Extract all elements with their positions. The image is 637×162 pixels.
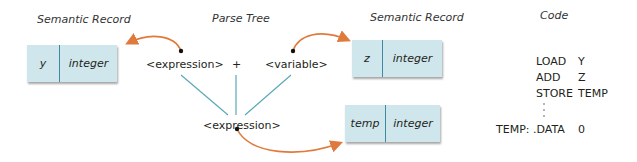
header-code: Code bbox=[540, 9, 568, 22]
code-arg: TEMP bbox=[578, 87, 608, 100]
tree-edges bbox=[181, 75, 291, 115]
code-op: .DATA bbox=[533, 123, 565, 136]
code-op: STORE bbox=[536, 87, 573, 100]
header-semantic-record-right: Semantic Record bbox=[370, 11, 464, 24]
record-name: y bbox=[27, 45, 60, 82]
code-arg: Y bbox=[578, 55, 585, 68]
semantic-record-y: y integer bbox=[27, 45, 117, 82]
tree-node-variable: <variable> bbox=[265, 58, 328, 71]
record-name: z bbox=[352, 40, 383, 77]
code-op: LOAD bbox=[536, 55, 566, 68]
header-parse-tree: Parse Tree bbox=[212, 12, 270, 25]
header-semantic-record-left: Semantic Record bbox=[37, 13, 131, 26]
tree-node-plus: + bbox=[232, 58, 241, 71]
record-type: integer bbox=[60, 45, 117, 82]
attribute-arrows bbox=[128, 34, 348, 152]
semantic-record-temp: temp integer bbox=[345, 105, 440, 142]
code-ellipsis bbox=[543, 103, 545, 117]
tree-node-expression-root: <expression> bbox=[203, 119, 281, 132]
semantic-record-z: z integer bbox=[352, 40, 442, 77]
record-type: integer bbox=[383, 40, 442, 77]
code-arg: 0 bbox=[578, 123, 585, 136]
tree-node-expression-left: <expression> bbox=[146, 58, 224, 71]
code-label: TEMP: bbox=[496, 123, 530, 136]
code-arg: Z bbox=[578, 71, 586, 84]
record-name: temp bbox=[345, 105, 386, 142]
code-op: ADD bbox=[536, 71, 560, 84]
record-type: integer bbox=[386, 105, 440, 142]
